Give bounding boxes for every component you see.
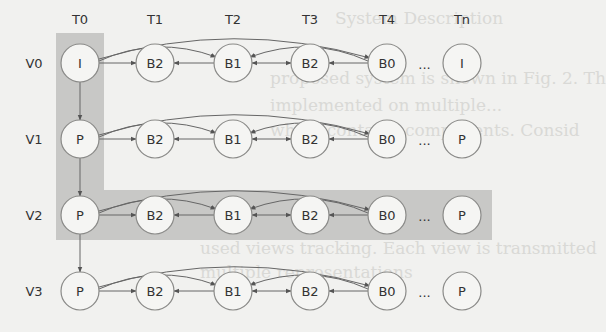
frame-node: P xyxy=(443,272,481,310)
frame-type-label: P xyxy=(76,284,84,299)
frame-node: P xyxy=(61,120,99,158)
frame-node: B1 xyxy=(214,44,252,82)
frame-node: B0 xyxy=(368,120,406,158)
frame-type-label: P xyxy=(458,208,466,223)
time-column-label: T2 xyxy=(224,12,241,27)
view-row-label: V2 xyxy=(25,208,42,223)
frame-node: B2 xyxy=(291,196,329,234)
view-row-label: V1 xyxy=(25,132,42,147)
frame-type-label: B2 xyxy=(301,284,318,299)
frame-type-label: B1 xyxy=(224,208,241,223)
frame-type-label: P xyxy=(76,132,84,147)
view-row-label: V3 xyxy=(25,284,42,299)
frame-type-label: B2 xyxy=(301,132,318,147)
frame-node: B1 xyxy=(214,120,252,158)
frame-node: B2 xyxy=(291,272,329,310)
time-column-label: T0 xyxy=(71,12,88,27)
frame-node: I xyxy=(61,44,99,82)
frame-node: B1 xyxy=(214,272,252,310)
view-row-label: V0 xyxy=(25,56,42,71)
frame-type-label: B1 xyxy=(224,284,241,299)
frame-node: B2 xyxy=(136,196,174,234)
time-column-label: T3 xyxy=(301,12,318,27)
frame-type-label: B2 xyxy=(146,284,163,299)
ellipsis: ... xyxy=(418,209,430,224)
frame-node: P xyxy=(61,272,99,310)
time-column-label: T1 xyxy=(146,12,163,27)
frame-type-label: B1 xyxy=(224,56,241,71)
frame-type-label: B2 xyxy=(301,56,318,71)
ellipsis: ... xyxy=(418,57,430,72)
frame-node: B0 xyxy=(368,196,406,234)
ellipsis: ... xyxy=(418,133,430,148)
frame-type-label: P xyxy=(458,284,466,299)
frame-type-label: B2 xyxy=(146,132,163,147)
frame-type-label: B2 xyxy=(301,208,318,223)
frame-type-label: I xyxy=(78,56,82,71)
frame-node: B2 xyxy=(136,120,174,158)
frame-node: P xyxy=(443,120,481,158)
frame-type-label: P xyxy=(76,208,84,223)
frame-node: B2 xyxy=(136,44,174,82)
frame-node: I xyxy=(443,44,481,82)
frame-node: B0 xyxy=(368,272,406,310)
frame-type-label: B0 xyxy=(378,208,395,223)
frame-type-label: P xyxy=(458,132,466,147)
frame-type-label: I xyxy=(460,56,464,71)
frame-node: B0 xyxy=(368,44,406,82)
frame-type-label: B0 xyxy=(378,132,395,147)
frame-node: B2 xyxy=(291,44,329,82)
frame-node: P xyxy=(443,196,481,234)
frame-type-label: B1 xyxy=(224,132,241,147)
frame-type-label: B2 xyxy=(146,56,163,71)
frame-node: B2 xyxy=(291,120,329,158)
frame-type-label: B2 xyxy=(146,208,163,223)
frame-type-label: B0 xyxy=(378,56,395,71)
frame-node: B1 xyxy=(214,196,252,234)
frame-type-label: B0 xyxy=(378,284,395,299)
time-column-label: Tn xyxy=(453,12,470,27)
frame-node: P xyxy=(61,196,99,234)
ellipsis: ... xyxy=(418,285,430,300)
frame-node: B2 xyxy=(136,272,174,310)
time-column-label: T4 xyxy=(378,12,395,27)
